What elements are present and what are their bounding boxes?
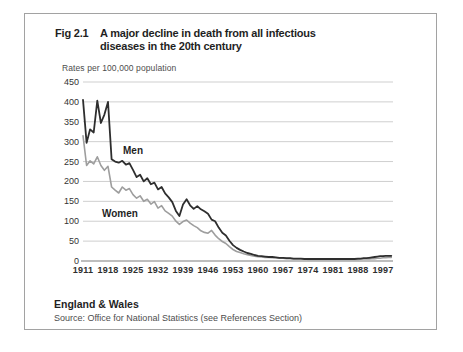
x-tick-label: 1997 [372, 265, 393, 275]
y-tick-label: 100 [64, 216, 79, 226]
x-tick-label: 1974 [297, 265, 318, 275]
x-tick-label: 1932 [147, 265, 168, 275]
y-tick-label: 450 [64, 77, 79, 87]
y-tick-label: 400 [64, 97, 79, 107]
figure-canvas: Fig 2.1 A major decline in death from al… [0, 0, 463, 352]
x-tick-label: 1953 [222, 265, 243, 275]
x-tick-label: 1939 [172, 265, 193, 275]
line-chart-plot: 0501001502002503003504004501911191819251… [25, 14, 436, 329]
x-tick-label: 1911 [73, 265, 94, 275]
x-tick-label: 1925 [122, 265, 143, 275]
y-tick-label: 50 [69, 236, 79, 246]
y-tick-label: 200 [64, 176, 79, 186]
y-tick-label: 300 [64, 137, 79, 147]
x-tick-label: 1918 [97, 265, 118, 275]
x-tick-label: 1967 [272, 265, 293, 275]
men-line [83, 100, 391, 259]
x-tick-label: 1946 [197, 265, 218, 275]
x-tick-label: 1960 [247, 265, 268, 275]
y-tick-label: 150 [64, 196, 79, 206]
x-tick-label: 1981 [322, 265, 343, 275]
y-tick-label: 350 [64, 117, 79, 127]
x-tick-label: 1988 [347, 265, 368, 275]
y-tick-label: 250 [64, 157, 79, 167]
women-series-label: Women [102, 208, 138, 219]
figure-frame: Fig 2.1 A major decline in death from al… [24, 13, 437, 330]
men-series-label: Men [123, 145, 143, 156]
region-label: England & Wales [54, 298, 139, 310]
source-label: Source: Office for National Statistics (… [54, 313, 302, 323]
